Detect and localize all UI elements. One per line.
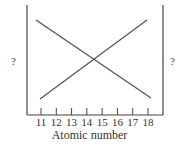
- increasing-line: [40, 20, 147, 99]
- x-tick-label: 12: [51, 116, 62, 128]
- x-tick-label: 15: [97, 116, 109, 128]
- left-y-label: ?: [11, 55, 16, 67]
- x-ticks: 1112131415161718: [36, 108, 154, 128]
- x-tick-label: 18: [143, 116, 155, 128]
- x-tick-label: 17: [127, 116, 139, 128]
- x-axis-label: Atomic number: [0, 128, 179, 143]
- x-tick-label: 14: [81, 116, 93, 128]
- x-tick-label: 13: [66, 116, 78, 128]
- x-tick-label: 16: [112, 116, 124, 128]
- x-tick-label: 11: [36, 116, 47, 128]
- right-y-label: ?: [170, 55, 175, 67]
